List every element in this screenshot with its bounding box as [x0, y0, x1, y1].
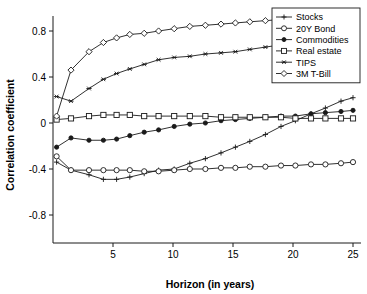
marker-asterisk — [187, 54, 192, 58]
marker-circle-filled — [115, 137, 119, 141]
marker-plus — [218, 150, 223, 155]
marker-square-open — [293, 116, 298, 121]
marker-square-open — [156, 114, 161, 119]
x-tick-label: 10 — [167, 249, 179, 260]
series-20y-bond — [54, 154, 356, 174]
marker-diamond-open — [187, 23, 193, 29]
marker-circle-open — [308, 162, 313, 167]
marker-circle-open — [172, 168, 177, 173]
marker-square-open — [323, 116, 328, 121]
legend-label: Stocks — [296, 12, 324, 22]
marker-square-open — [350, 116, 355, 121]
marker-circle-filled — [55, 145, 59, 149]
marker-asterisk — [156, 58, 161, 62]
marker-square-open — [187, 114, 192, 119]
marker-circle-filled — [188, 122, 192, 126]
marker-circle-open — [278, 163, 283, 168]
marker-circle-filled — [351, 108, 355, 112]
marker-circle-filled — [157, 128, 161, 132]
marker-diamond-open — [202, 22, 208, 28]
marker-asterisk — [203, 52, 208, 56]
marker-square-open — [101, 112, 106, 117]
marker-circle-open — [282, 26, 287, 31]
marker-plus — [323, 105, 328, 110]
marker-square-open — [338, 116, 343, 121]
marker-circle-filled — [309, 112, 313, 116]
legend-label: Real estate — [296, 46, 342, 56]
marker-asterisk — [127, 67, 132, 71]
marker-diamond-open — [171, 26, 177, 32]
marker-asterisk — [68, 99, 73, 103]
x-tick-label: 15 — [227, 249, 239, 260]
marker-circle-filled — [339, 109, 343, 113]
marker-plus — [54, 160, 59, 165]
marker-plus — [101, 177, 106, 182]
marker-diamond-open — [247, 19, 253, 25]
marker-circle-open — [101, 168, 106, 173]
marker-circle-open — [233, 165, 238, 170]
marker-square-open — [172, 114, 177, 119]
x-tick-label: 5 — [110, 249, 116, 260]
marker-circle-filled — [101, 138, 105, 142]
x-tick-label: 20 — [287, 249, 299, 260]
marker-diamond-open — [156, 28, 162, 34]
marker-circle-filled — [69, 136, 73, 140]
marker-asterisk — [218, 51, 223, 55]
marker-asterisk — [54, 95, 59, 99]
marker-circle-open — [293, 163, 298, 168]
marker-plus — [233, 145, 238, 150]
y-axis-label: Correlation coefficient — [4, 79, 16, 191]
x-axis-label: Horizon (in years) — [166, 278, 255, 290]
marker-square-open — [263, 115, 268, 120]
marker-circle-filled — [323, 111, 327, 115]
marker-diamond-open — [262, 18, 268, 24]
marker-square-open — [68, 116, 73, 121]
marker-plus — [114, 177, 119, 182]
marker-asterisk — [247, 48, 252, 52]
marker-circle-open — [350, 160, 355, 165]
marker-circle-open — [142, 169, 147, 174]
marker-square-open — [127, 112, 132, 117]
chart-plot-area: 0.80.40-0.4-0.8510152025 Stocks20Y BondC… — [0, 0, 367, 294]
marker-circle-open — [114, 168, 119, 173]
marker-circle-filled — [142, 130, 146, 134]
marker-plus — [203, 156, 208, 161]
marker-circle-filled — [282, 38, 286, 42]
marker-circle-filled — [203, 121, 207, 125]
marker-diamond-open — [100, 39, 106, 45]
marker-plus — [278, 124, 283, 129]
marker-asterisk — [172, 56, 177, 60]
marker-circle-open — [203, 166, 208, 171]
marker-circle-open — [247, 164, 252, 169]
marker-plus — [350, 95, 355, 100]
y-tick-label: 0.8 — [32, 26, 46, 37]
marker-plus — [127, 174, 132, 179]
marker-square-open — [203, 114, 208, 119]
correlation-chart: 0.80.40-0.4-0.8510152025 Stocks20Y BondC… — [0, 0, 367, 294]
marker-square-open — [114, 112, 119, 117]
y-tick-label: -0.4 — [29, 164, 47, 175]
marker-plus — [247, 139, 252, 144]
marker-circle-open — [54, 154, 59, 159]
marker-circle-open — [323, 162, 328, 167]
marker-circle-open — [263, 164, 268, 169]
legend-label: 20Y Bond — [296, 24, 335, 34]
marker-circle-filled — [128, 134, 132, 138]
marker-circle-open — [86, 168, 91, 173]
chart-legend[interactable]: Stocks20Y BondCommoditiesReal estateTIPS… — [272, 8, 360, 83]
x-tick-label: 25 — [347, 249, 359, 260]
marker-square-open — [308, 116, 313, 121]
marker-plus — [187, 161, 192, 166]
marker-square-open — [233, 115, 238, 120]
marker-circle-filled — [172, 124, 176, 128]
marker-circle-filled — [87, 138, 91, 142]
marker-diamond-open — [218, 21, 224, 27]
legend-label: TIPS — [296, 58, 316, 68]
y-tick-label: 0.4 — [32, 72, 46, 83]
marker-plus — [338, 99, 343, 104]
marker-asterisk — [114, 72, 119, 76]
marker-circle-open — [187, 166, 192, 171]
marker-plus — [263, 132, 268, 137]
marker-diamond-open — [141, 30, 147, 36]
marker-square-open — [278, 115, 283, 120]
